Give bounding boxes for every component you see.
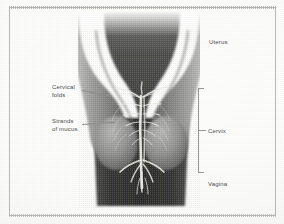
cervix-bracket-tick <box>198 130 206 131</box>
label-strands-of-mucus: Strands of mucus <box>52 118 78 133</box>
label-vagina: Vagina <box>208 181 227 189</box>
figure-frame-top-edge <box>9 6 276 9</box>
figure-root: Uterus Cervical folds Strands of mucus C… <box>0 0 284 224</box>
figure-frame <box>9 7 276 216</box>
label-cervix: Cervix <box>208 128 226 136</box>
figure-frame-bottom-edge <box>9 214 276 217</box>
label-cervical-folds: Cervical folds <box>52 84 75 99</box>
label-uterus: Uterus <box>209 39 228 47</box>
